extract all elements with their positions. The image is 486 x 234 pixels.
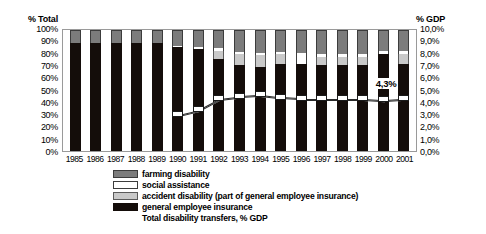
right-axis-caption: % GDP [416,14,445,24]
stacked-bar[interactable] [357,30,368,151]
bar-column-1991[interactable] [188,30,209,151]
bar-segment-farming [296,30,307,53]
bar-segment-farming [213,30,224,48]
bar-column-2000[interactable] [373,30,394,151]
x-tick-1995: 1995 [270,154,291,167]
bar-column-1987[interactable] [106,30,127,151]
bar-segment-accident [234,54,245,65]
bar-column-1988[interactable] [127,30,148,151]
bar-column-1990[interactable] [168,30,189,151]
y-tick-left-80: 80% [41,50,58,58]
bar-group [63,30,416,151]
bar-column-1992[interactable] [209,30,230,151]
y-tick-right-7: 7,0% [420,62,439,70]
x-tick-1998: 1998 [332,154,353,167]
x-axis-labels: 1985198619871988198919901991199219931994… [62,154,417,167]
bar-column-1994[interactable] [250,30,271,151]
legend-item-general-employee-insurance: general employee insurance [113,202,443,213]
bar-column-1998[interactable] [332,30,353,151]
legend-swatch-total-icon [113,214,138,222]
stacked-bar[interactable] [398,30,409,151]
stacked-bar[interactable] [193,30,204,151]
bar-segment-accident [213,51,224,59]
right-axis-ticks: 10,0%9,0%8,0%7,0%6,0%5,0%4,0%3,0%2,0%1,0… [420,29,460,152]
y-tick-right-4: 4,0% [420,99,439,107]
stacked-bar[interactable] [70,30,81,151]
y-tick-left-60: 60% [41,74,58,82]
legend-item-farming-disability: farming disability [113,169,443,180]
gdp-marker-1997 [316,95,327,101]
bar-column-2001[interactable] [394,30,415,151]
bar-column-1989[interactable] [147,30,168,151]
x-tick-1996: 1996 [291,154,312,167]
legend-swatch-accident-icon [113,192,138,200]
gdp-marker-1998 [337,95,348,101]
bar-column-1985[interactable] [65,30,86,151]
left-axis-ticks: 100%90%80%70%60%50%40%30%20%10%0% [24,29,58,152]
bar-segment-farming [398,30,409,51]
bar-segment-farming [337,30,348,54]
bar-segment-accident [398,54,409,64]
chart-legend: farming disability social assistance acc… [113,169,443,224]
gdp-marker-2001 [398,95,409,101]
bar-segment-farming [70,30,81,43]
y-tick-left-40: 40% [41,99,58,107]
gdp-marker-1990 [172,111,183,117]
stacked-bar[interactable] [90,30,101,151]
x-tick-1994: 1994 [250,154,271,167]
y-tick-right-2: 2,0% [420,123,439,131]
bar-segment-general [152,43,163,151]
bar-column-1995[interactable] [270,30,291,151]
x-tick-1987: 1987 [105,154,126,167]
y-tick-left-70: 70% [41,62,58,70]
stacked-bar[interactable] [296,30,307,151]
legend-item-accident-disability: accident disability (part of general emp… [113,191,443,202]
stacked-bar[interactable] [316,30,327,151]
x-tick-1989: 1989 [147,154,168,167]
legend-label-general: general employee insurance [142,202,252,212]
legend-swatch-general-icon [113,203,138,211]
bar-segment-farming [316,30,327,54]
stacked-bar[interactable] [172,30,183,151]
stacked-bar[interactable] [213,30,224,151]
bar-column-1999[interactable] [352,30,373,151]
bar-segment-general [337,65,348,151]
stacked-bar[interactable] [378,30,389,151]
legend-label-total: Total disability transfers, % GDP [142,213,268,223]
bar-column-1993[interactable] [229,30,250,151]
x-tick-1988: 1988 [126,154,147,167]
stacked-bar[interactable] [131,30,142,151]
y-tick-left-0: 0% [46,148,58,156]
bar-segment-farming [111,30,122,43]
gdp-marker-1992 [213,95,224,101]
bar-column-1996[interactable] [291,30,312,151]
plot-area: 4,3% [62,29,417,152]
bar-column-1986[interactable] [86,30,107,151]
bar-segment-general [296,64,307,151]
bar-segment-general [357,65,368,151]
legend-swatch-social-icon [113,181,138,189]
gdp-marker-1996 [296,95,307,101]
x-tick-1985: 1985 [64,154,85,167]
legend-label-accident: accident disability (part of general emp… [142,191,358,201]
y-tick-right-5: 5,0% [420,87,439,95]
stacked-bar[interactable] [111,30,122,151]
x-tick-1992: 1992 [208,154,229,167]
y-tick-left-20: 20% [41,123,58,131]
y-tick-right-8: 8,0% [420,50,439,58]
stacked-bar[interactable] [152,30,163,151]
stacked-bar[interactable] [275,30,286,151]
bar-segment-general [111,43,122,151]
gdp-marker-1993 [234,93,245,99]
stacked-bar[interactable] [337,30,348,151]
bar-segment-farming [275,30,286,52]
bar-column-1997[interactable] [311,30,332,151]
legend-swatch-farming-icon [113,170,138,178]
gdp-marker-1995 [275,94,286,100]
bar-segment-farming [131,30,142,43]
stacked-bar[interactable] [234,30,245,151]
x-tick-2000: 2000 [374,154,395,167]
bar-segment-general [234,65,245,151]
chart-container: % Total % GDP 100%90%80%70%60%50%40%30%2… [0,0,486,234]
bar-segment-general [70,43,81,151]
